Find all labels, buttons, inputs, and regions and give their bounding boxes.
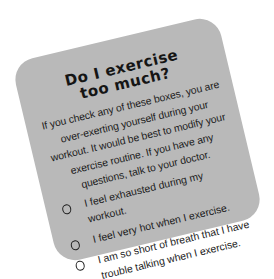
exercise-checklist-card: Do I exercise too much? If you check any…: [10, 14, 263, 264]
circle-checkbox-icon[interactable]: [61, 202, 72, 214]
circle-checkbox-icon[interactable]: [74, 259, 85, 271]
circle-checkbox-icon[interactable]: [69, 238, 80, 250]
